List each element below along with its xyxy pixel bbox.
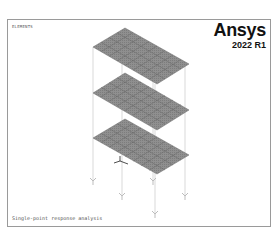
fe-model-view [0,0,279,235]
floor-plate-top [93,28,189,84]
support-icons [90,178,188,218]
coordinate-triad-icon [114,156,128,164]
floor-plate-middle [93,73,189,130]
